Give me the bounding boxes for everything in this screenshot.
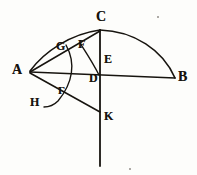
point-label-e: E bbox=[104, 53, 112, 65]
point-label-gamma: Γ bbox=[58, 85, 65, 96]
arc-g-gamma-h bbox=[44, 45, 72, 107]
point-label-k: K bbox=[104, 110, 113, 122]
paper-speck bbox=[129, 168, 131, 170]
point-label-f: F bbox=[78, 38, 85, 50]
geometric-figure: A B C D E F G H K Γ bbox=[0, 0, 197, 175]
point-label-a: A bbox=[12, 63, 22, 77]
paper-speck bbox=[157, 16, 159, 18]
point-label-c: C bbox=[96, 10, 106, 24]
segment-ab bbox=[30, 72, 175, 78]
point-label-b: B bbox=[178, 70, 187, 84]
point-label-d: D bbox=[89, 72, 98, 84]
figure-canvas bbox=[0, 0, 197, 175]
point-label-g: G bbox=[56, 40, 65, 52]
point-label-h: H bbox=[30, 96, 39, 108]
